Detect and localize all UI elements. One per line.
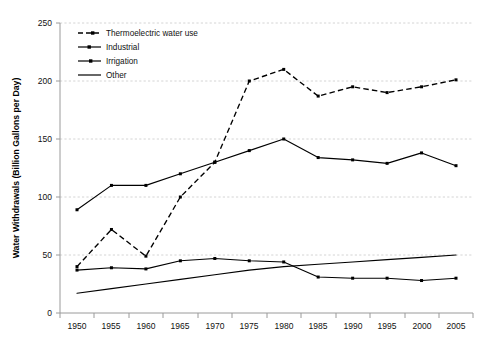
data-point	[386, 162, 389, 165]
x-tick-label-1995: 1995	[378, 321, 397, 331]
data-point	[179, 259, 182, 262]
data-point	[213, 257, 216, 260]
chart-container: 250 200 150 100 50 0 1950 1955 1960 1965…	[0, 0, 481, 346]
x-tick-label-1965: 1965	[171, 321, 190, 331]
data-point	[420, 279, 423, 282]
data-point	[76, 269, 79, 272]
data-point	[282, 138, 285, 141]
data-point	[144, 255, 147, 258]
line-chart: 250 200 150 100 50 0 1950 1955 1960 1965…	[0, 0, 481, 346]
data-point	[110, 228, 113, 231]
data-point	[351, 277, 354, 280]
legend-label-irrigation: Irrigation	[106, 57, 138, 66]
data-point	[110, 184, 113, 187]
chart-background	[0, 0, 481, 346]
legend-marker-irrigation	[89, 59, 92, 62]
y-axis-title: Water Withdrawals (Billion Gallons per D…	[11, 78, 21, 259]
data-point	[282, 260, 285, 263]
data-point	[179, 172, 182, 175]
y-tick-label-100: 100	[38, 192, 52, 202]
data-point	[386, 91, 389, 94]
data-point	[144, 184, 147, 187]
y-tick-label-250: 250	[38, 18, 52, 28]
data-point	[420, 85, 423, 88]
x-tick-label-2005: 2005	[447, 321, 466, 331]
data-point	[248, 80, 251, 83]
legend-marker-thermoelectric	[91, 31, 94, 34]
y-tick-label-0: 0	[47, 308, 52, 318]
data-point	[420, 151, 423, 154]
data-point	[386, 277, 389, 280]
x-tick-label-2000: 2000	[413, 321, 432, 331]
x-tick-label-1985: 1985	[309, 321, 328, 331]
legend-label-industrial: Industrial	[106, 43, 139, 52]
x-tick-label-1975: 1975	[240, 321, 259, 331]
legend-label-other: Other	[106, 71, 127, 80]
data-point	[455, 164, 458, 167]
data-point	[248, 149, 251, 152]
y-tick-label-150: 150	[38, 134, 52, 144]
legend-marker-industrial	[88, 45, 91, 48]
data-point	[110, 266, 113, 269]
data-point	[76, 208, 79, 211]
legend-label-thermoelectric: Thermoelectric water use	[106, 29, 198, 38]
y-tick-label-200: 200	[38, 76, 52, 86]
x-tick-label-1990: 1990	[344, 321, 363, 331]
data-point	[248, 259, 251, 262]
data-point	[179, 196, 182, 199]
data-point	[455, 277, 458, 280]
data-point	[317, 95, 320, 98]
data-point	[351, 85, 354, 88]
x-tick-label-1960: 1960	[137, 321, 156, 331]
data-point	[317, 276, 320, 279]
data-point	[76, 265, 79, 268]
y-tick-label-50: 50	[43, 250, 53, 260]
x-tick-label-1970: 1970	[206, 321, 225, 331]
data-point	[282, 68, 285, 71]
data-point	[317, 156, 320, 159]
data-point	[351, 158, 354, 161]
data-point	[455, 78, 458, 81]
x-tick-label-1980: 1980	[275, 321, 294, 331]
data-point	[144, 267, 147, 270]
x-tick-label-1950: 1950	[68, 321, 87, 331]
data-point	[213, 161, 216, 164]
x-tick-label-1955: 1955	[102, 321, 121, 331]
